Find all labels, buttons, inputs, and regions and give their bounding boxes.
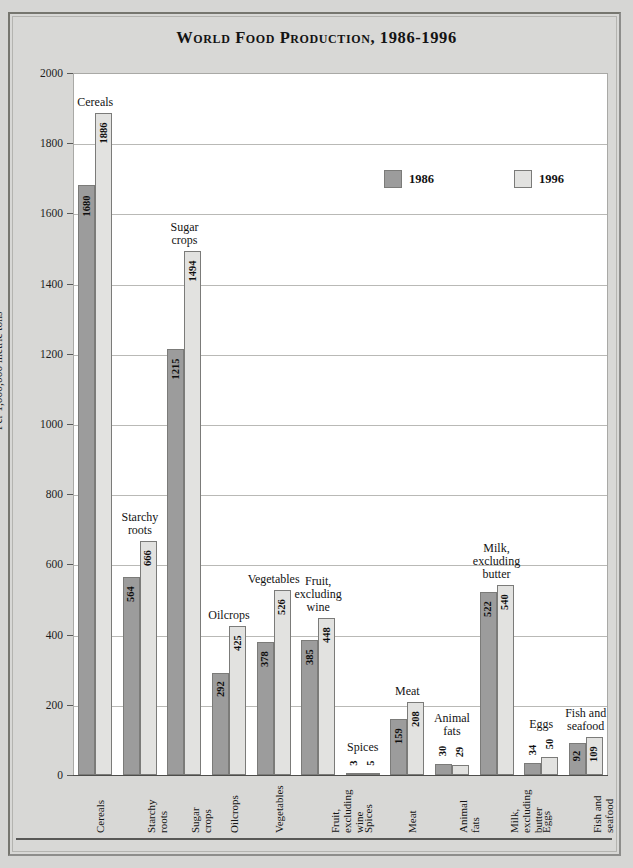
x-tick-label-starchy-roots: Starchy roots: [146, 771, 170, 833]
y-tick-mark: [67, 354, 73, 355]
category-label-fish-and-seafood: Fish and seafood: [543, 707, 629, 733]
legend-swatch-icon: [384, 170, 402, 188]
bar-value-label: 385: [304, 649, 315, 665]
gridline: [74, 355, 607, 356]
legend-swatch-icon: [514, 170, 532, 188]
bar-value-label: 5: [366, 761, 377, 766]
legend-item-1986[interactable]: 1986: [384, 170, 434, 188]
y-tick-label: 1200: [3, 348, 63, 360]
bar-value-label: 92: [572, 751, 583, 762]
x-tick-label-eggs: Eggs: [541, 771, 553, 833]
y-tick-label: 800: [3, 488, 63, 500]
bar-value-label: 448: [321, 627, 332, 643]
category-label-animal-fats: Animal fats: [409, 712, 495, 738]
category-label-cereals: Cereals: [52, 96, 138, 109]
x-tick-label-animal-fats: Animal fats: [458, 771, 482, 833]
bar-value-label: 540: [500, 594, 511, 610]
bar-value-label: 34: [527, 745, 538, 756]
bar-1996-cereals: [95, 113, 112, 775]
y-tick-mark: [67, 424, 73, 425]
x-tick-label-fish-and-seafood: Fish and seafood: [592, 771, 616, 833]
bar-1996-starchy-roots: [140, 541, 157, 775]
y-tick-mark: [67, 635, 73, 636]
x-tick-label-milk-excluding-butter: Milk, excluding butter: [509, 771, 545, 833]
y-tick-mark: [67, 705, 73, 706]
bar-1986-sugar-crops: [167, 349, 184, 775]
category-label-starchy-roots: Starchy roots: [97, 511, 183, 537]
bar-value-label: 425: [232, 635, 243, 651]
gridline: [74, 144, 607, 145]
category-label-oilcrops: Oilcrops: [186, 609, 272, 622]
category-label-fruit-excluding-wine: Fruit, excluding wine: [275, 575, 361, 614]
bar-value-label: 1494: [188, 261, 199, 282]
y-tick-mark: [67, 494, 73, 495]
legend-label: 1986: [409, 172, 434, 187]
bar-value-label: 1886: [99, 123, 110, 144]
bar-1996-sugar-crops: [184, 251, 201, 775]
y-axis-label: Per 1,000,000 metric tons: [0, 312, 4, 431]
bar-value-label: 109: [589, 746, 600, 762]
y-tick-label: 600: [3, 558, 63, 570]
y-tick-label: 400: [3, 629, 63, 641]
y-tick-label: 0: [3, 769, 63, 781]
y-tick-label: 200: [3, 699, 63, 711]
category-label-spices: Spices: [320, 741, 406, 754]
bar-value-label: 29: [455, 746, 466, 757]
bar-value-label: 564: [126, 586, 137, 602]
bar-1996-milk-excluding-butter: [497, 585, 514, 775]
bar-1986-starchy-roots: [123, 577, 140, 775]
y-tick-label: 2000: [3, 67, 63, 79]
y-tick-label: 1800: [3, 137, 63, 149]
bar-value-label: 666: [143, 550, 154, 566]
bar-value-label: 522: [483, 601, 494, 617]
category-label-meat: Meat: [364, 685, 450, 698]
bar-value-label: 378: [260, 651, 271, 667]
bar-value-label: 50: [544, 739, 555, 750]
x-tick-label-cereals: Cereals: [95, 771, 107, 833]
bar-value-label: 1215: [171, 358, 182, 379]
legend-item-1996[interactable]: 1996: [514, 170, 564, 188]
legend-label: 1996: [539, 172, 564, 187]
y-tick-label: 1000: [3, 418, 63, 430]
bar-1986-animal-fats: [435, 764, 452, 775]
bar-value-label: 1680: [82, 195, 93, 216]
y-tick-label: 1400: [3, 278, 63, 290]
category-label-milk-excluding-butter: Milk, excluding butter: [454, 542, 540, 581]
x-tick-label-vegetables: Vegetables: [274, 771, 286, 833]
gridline: [74, 495, 607, 496]
chart-page: World Food Production, 1986-1996 2000180…: [0, 0, 633, 868]
category-label-sugar-crops: Sugar crops: [141, 221, 227, 247]
y-tick-mark: [67, 564, 73, 565]
y-tick-mark: [67, 73, 73, 74]
gridline: [74, 214, 607, 215]
x-tick-label-oilcrops: Oilcrops: [229, 771, 241, 833]
x-tick-label-fruit-excluding-wine: Fruit, excluding wine: [330, 771, 366, 833]
y-tick-mark: [67, 143, 73, 144]
y-tick-mark: [67, 284, 73, 285]
bar-1996-vegetables: [274, 590, 291, 775]
figure-baseline-rule: [16, 838, 612, 840]
gridline: [74, 425, 607, 426]
x-tick-label-sugar-crops: Sugar crops: [190, 771, 214, 833]
gridline: [74, 285, 607, 286]
bar-value-label: 292: [215, 681, 226, 697]
bar-1986-milk-excluding-butter: [480, 592, 497, 775]
bar-value-label: 3: [349, 761, 360, 766]
bar-value-label: 30: [438, 746, 449, 757]
y-tick-label: 1600: [3, 207, 63, 219]
chart-title: World Food Production, 1986-1996: [0, 28, 633, 48]
x-tick-label-spices: Spices: [363, 771, 375, 833]
x-tick-label-meat: Meat: [407, 771, 419, 833]
bar-1986-cereals: [78, 185, 95, 775]
y-tick-mark: [67, 213, 73, 214]
